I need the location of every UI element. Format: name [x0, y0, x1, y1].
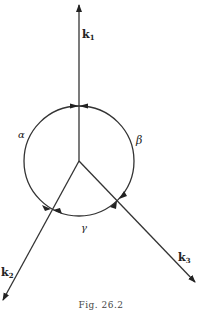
arc-arrow-icon	[70, 104, 79, 109]
label-gamma: γ	[81, 222, 87, 233]
label-k2: k2	[1, 266, 14, 280]
label-k3: k3	[178, 251, 191, 265]
vector-k2	[3, 161, 79, 300]
vector-diagram: k1 k2 k3 α β γ Fig. 26.2	[0, 0, 198, 314]
arc-arrow-icon	[79, 104, 88, 109]
label-beta: β	[135, 134, 142, 147]
arc-arrow-icon	[119, 191, 127, 199]
arc-arrow-icon	[53, 208, 62, 214]
figure-caption: Fig. 26.2	[78, 300, 123, 310]
label-k1: k1	[82, 28, 95, 42]
label-alpha: α	[18, 129, 25, 140]
figure-26-2: k1 k2 k3 α β γ Fig. 26.2	[0, 0, 198, 314]
